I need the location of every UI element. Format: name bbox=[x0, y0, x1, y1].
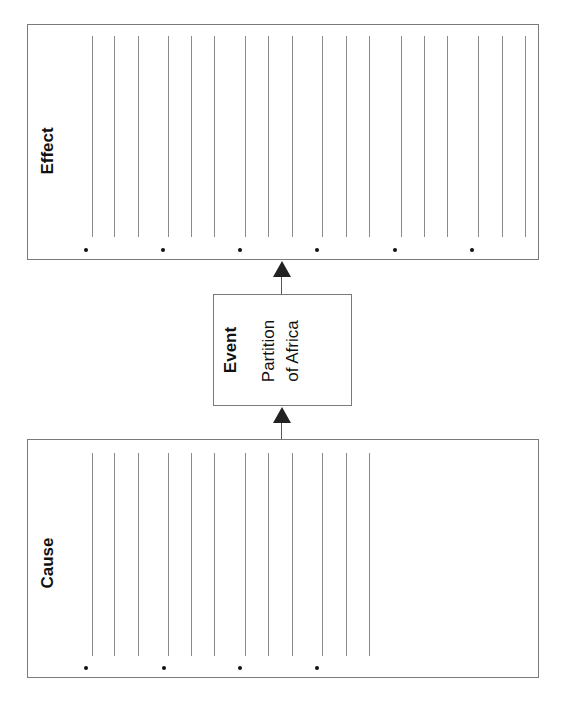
effect-writing-line[interactable] bbox=[369, 36, 370, 237]
cause-bullet-icon bbox=[315, 666, 319, 670]
cause-writing-line[interactable] bbox=[346, 453, 347, 656]
cause-bullet-icon bbox=[162, 666, 166, 670]
cause-writing-line[interactable] bbox=[292, 453, 293, 656]
effect-writing-line[interactable] bbox=[245, 36, 246, 237]
cause-writing-line[interactable] bbox=[191, 453, 192, 656]
effect-writing-line[interactable] bbox=[268, 36, 269, 237]
event-text-line-1: Partition bbox=[257, 320, 281, 382]
arrow-event-to-effect-shaft bbox=[281, 274, 282, 294]
cause-writing-line[interactable] bbox=[92, 453, 93, 656]
effect-bullet-icon bbox=[161, 248, 165, 252]
effect-writing-line[interactable] bbox=[401, 36, 402, 237]
event-title: Event bbox=[221, 327, 241, 373]
effect-writing-line[interactable] bbox=[114, 36, 115, 237]
effect-writing-line[interactable] bbox=[478, 36, 479, 237]
effect-bullet-icon bbox=[238, 248, 242, 252]
effect-writing-line[interactable] bbox=[92, 36, 93, 237]
effect-bullet-icon bbox=[470, 248, 474, 252]
cause-writing-line[interactable] bbox=[245, 453, 246, 656]
event-box: Event Partition of Africa bbox=[213, 294, 352, 406]
cause-writing-line[interactable] bbox=[114, 453, 115, 656]
cause-writing-line[interactable] bbox=[268, 453, 269, 656]
effect-box: Effect bbox=[27, 24, 539, 260]
effect-writing-line[interactable] bbox=[447, 36, 448, 237]
effect-writing-line[interactable] bbox=[214, 36, 215, 237]
effect-writing-line[interactable] bbox=[525, 36, 526, 237]
effect-writing-line[interactable] bbox=[138, 36, 139, 237]
arrow-up-icon bbox=[273, 407, 291, 423]
cause-writing-line[interactable] bbox=[214, 453, 215, 656]
arrow-cause-to-event-shaft bbox=[281, 420, 282, 440]
effect-writing-line[interactable] bbox=[502, 36, 503, 237]
cause-writing-line[interactable] bbox=[322, 453, 323, 656]
effect-writing-line[interactable] bbox=[191, 36, 192, 237]
effect-bullet-icon bbox=[315, 248, 319, 252]
cause-title: Cause bbox=[38, 537, 58, 588]
cause-writing-line[interactable] bbox=[369, 453, 370, 656]
event-description[interactable]: Partition of Africa bbox=[257, 320, 305, 382]
arrow-up-icon bbox=[273, 261, 291, 277]
cause-bullet-icon bbox=[238, 666, 242, 670]
effect-bullet-icon bbox=[393, 248, 397, 252]
effect-bullet-icon bbox=[84, 248, 88, 252]
effect-writing-line[interactable] bbox=[168, 36, 169, 237]
event-text-line-2: of Africa bbox=[281, 320, 305, 382]
effect-writing-line[interactable] bbox=[322, 36, 323, 237]
cause-writing-line[interactable] bbox=[138, 453, 139, 656]
cause-box: Cause bbox=[27, 439, 539, 678]
effect-writing-line[interactable] bbox=[424, 36, 425, 237]
cause-writing-line[interactable] bbox=[168, 453, 169, 656]
effect-writing-line[interactable] bbox=[292, 36, 293, 237]
effect-writing-line[interactable] bbox=[346, 36, 347, 237]
cause-bullet-icon bbox=[84, 666, 88, 670]
effect-title: Effect bbox=[38, 127, 58, 174]
